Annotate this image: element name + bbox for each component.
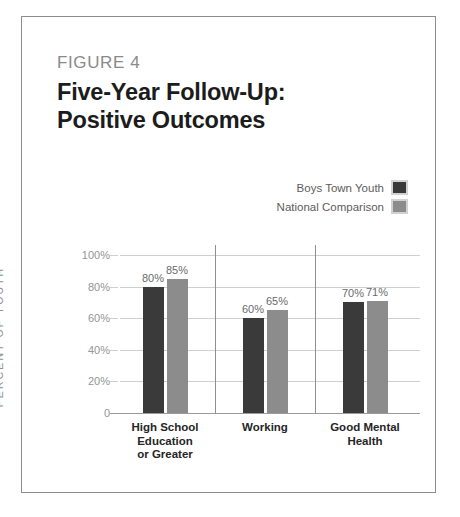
legend-item-label: National Comparison [277,200,384,214]
legend-item: Boys Town Youth [297,180,408,195]
y-axis-title: PERCENT OF YOUTH [0,262,9,412]
y-axis-tick [110,287,118,288]
bar [367,301,388,413]
category-label-line: Health [315,435,415,449]
bar [143,287,164,413]
gridline [120,255,420,256]
y-axis-tick [110,381,118,382]
y-axis-tick-label: 100% [68,250,110,261]
category-label: Good MentalHealth [315,421,415,448]
group-separator [215,245,216,413]
legend-item: National Comparison [277,199,408,214]
y-axis-tick-label: 40% [68,345,110,356]
bar [243,318,264,413]
y-axis-tick-labels: 020%40%60%80%100% [62,255,110,413]
bar [167,279,188,413]
chart-legend: Boys Town YouthNational Comparison [277,180,408,214]
category-label-line: or Greater [115,448,215,462]
category-label-line: Education [115,435,215,449]
page-title: Five-Year Follow-Up: Positive Outcomes [57,78,387,134]
bar [267,310,288,413]
category-label: High SchoolEducationor Greater [115,421,215,462]
y-axis-tick [110,350,118,351]
title-line-2: Positive Outcomes [57,106,387,134]
title-block: FIGURE 4 Five-Year Follow-Up: Positive O… [57,52,387,134]
figure-page: FIGURE 4 Five-Year Follow-Up: Positive O… [0,0,460,517]
legend-color-swatch [391,180,408,195]
plot-area: 80%85%60%65%70%71% [120,255,420,413]
legend-item-label: Boys Town Youth [297,181,384,195]
y-axis-tick-label: 0 [68,408,110,419]
y-axis-tick [110,318,118,319]
figure-number-label: FIGURE 4 [57,52,387,73]
legend-color-swatch [391,199,408,214]
x-axis-baseline [110,413,420,414]
y-axis-tick [110,255,118,256]
title-line-1: Five-Year Follow-Up: [57,78,387,106]
bar-value-label: 71% [363,287,392,298]
y-axis-tick-label: 20% [68,376,110,387]
y-axis-tick-label: 80% [68,282,110,293]
category-label-line: Good Mental [315,421,415,435]
x-axis-category-labels: High SchoolEducationor GreaterWorkingGoo… [120,421,420,477]
y-axis-tick-label: 60% [68,313,110,324]
group-separator [315,245,316,413]
category-label: Working [215,421,315,435]
bar [343,302,364,413]
category-label-line: Working [215,421,315,435]
bar-value-label: 85% [163,265,192,276]
category-label-line: High School [115,421,215,435]
bar-value-label: 65% [263,296,292,307]
